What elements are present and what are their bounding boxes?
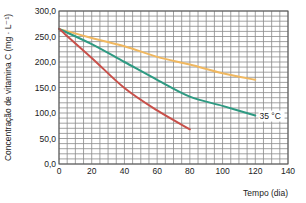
x-axis-label: Tempo (dia) bbox=[243, 188, 288, 198]
y-tick-label: 250,0 bbox=[35, 32, 57, 42]
x-axis-ticks: 020406080100120140 bbox=[57, 166, 296, 176]
x-tick-label: 20 bbox=[87, 166, 97, 176]
x-tick-label: 40 bbox=[120, 166, 130, 176]
x-tick-label: 100 bbox=[215, 166, 229, 176]
chart-grid bbox=[59, 11, 288, 164]
x-tick-label: 0 bbox=[57, 166, 62, 176]
y-tick-label: 300,0 bbox=[35, 6, 57, 16]
y-tick-label: 150,0 bbox=[35, 83, 57, 93]
chart-annotations: 35 °C bbox=[259, 111, 285, 122]
y-axis-ticks: 0,050,0100,0150,0200,0250,0300,0 bbox=[35, 6, 57, 169]
x-tick-label: 120 bbox=[248, 166, 262, 176]
series-annotation-label: 35 °C bbox=[260, 111, 281, 121]
y-tick-label: 0,0 bbox=[44, 159, 56, 169]
y-tick-label: 200,0 bbox=[35, 57, 57, 67]
y-tick-label: 100,0 bbox=[35, 108, 57, 118]
x-tick-label: 140 bbox=[281, 166, 295, 176]
vitamin-c-chart: 0,050,0100,0150,0200,0250,0300,0 0204060… bbox=[0, 0, 306, 203]
y-tick-label: 50,0 bbox=[39, 134, 56, 144]
x-tick-label: 60 bbox=[152, 166, 162, 176]
y-axis-label: Concentração de vitamina C (mg · L⁻¹) bbox=[3, 14, 13, 161]
x-tick-label: 80 bbox=[185, 166, 195, 176]
